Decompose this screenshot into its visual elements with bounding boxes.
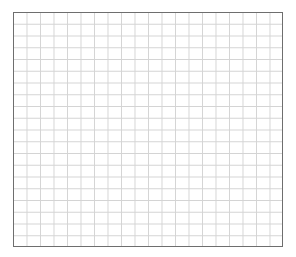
empty-grid-canvas[interactable] — [13, 12, 283, 247]
